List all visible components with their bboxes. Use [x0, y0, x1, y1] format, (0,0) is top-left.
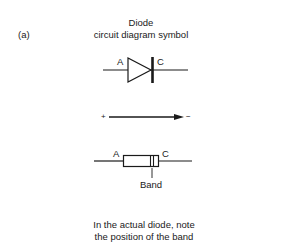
- anode-label: A: [117, 56, 123, 67]
- physical-cathode-label: C: [162, 148, 169, 159]
- plus-label: +: [101, 111, 106, 122]
- minus-label: −: [186, 111, 191, 122]
- physical-diode-icon: [94, 156, 192, 179]
- physical-anode-label: A: [113, 148, 119, 159]
- current-direction-arrow-icon: [109, 114, 184, 120]
- cathode-label: C: [157, 56, 164, 67]
- band-label: Band: [140, 179, 162, 190]
- diode-symbol-icon: [103, 57, 188, 83]
- caption-line-1: In the actual diode, note: [93, 219, 194, 230]
- caption-line-2: the position of the band: [95, 231, 194, 242]
